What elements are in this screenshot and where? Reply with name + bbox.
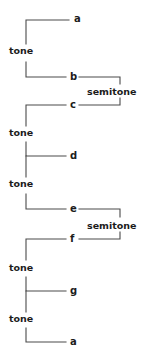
interval-semitone-b-c: semitone bbox=[87, 86, 137, 97]
bracket-tone-g-a-low bbox=[26, 328, 66, 342]
interval-tone-a-b: tone bbox=[9, 45, 33, 56]
note-g: g bbox=[70, 285, 77, 296]
interval-labels-group: tonesemitonetonetonesemitonetonetone bbox=[9, 45, 137, 324]
note-d: d bbox=[70, 150, 77, 161]
bracket-tone-f-g bbox=[26, 239, 66, 260]
bracket-semitone-e-f-low bbox=[79, 232, 120, 239]
scale-interval-diagram: abcdefga tonesemitonetonetonesemitoneton… bbox=[0, 0, 155, 358]
bracket-tone-a-b bbox=[26, 20, 69, 44]
bracket-semitone-e-f bbox=[79, 209, 120, 217]
interval-tone-g-a: tone bbox=[9, 313, 33, 324]
scale-diagram-canvas: abcdefga tonesemitonetonetonesemitoneton… bbox=[0, 0, 155, 358]
bracket-tone-a-b-low bbox=[26, 62, 66, 77]
interval-tone-d-e: tone bbox=[9, 178, 33, 189]
bracket-tone-f-g-low bbox=[26, 277, 66, 291]
note-a-top: a bbox=[74, 13, 81, 24]
bracket-tone-d-e-low bbox=[26, 194, 66, 209]
note-a-bottom: a bbox=[70, 336, 77, 347]
bracket-semitone-b-c bbox=[79, 77, 120, 84]
bracket-semitone-b-c-low bbox=[79, 98, 120, 105]
note-f: f bbox=[70, 233, 75, 244]
note-b: b bbox=[70, 71, 77, 82]
bracket-tone-c-d bbox=[26, 105, 66, 126]
note-labels-group: abcdefga bbox=[70, 13, 81, 347]
note-e: e bbox=[70, 203, 77, 214]
interval-tone-f-g: tone bbox=[9, 262, 33, 273]
note-c: c bbox=[70, 99, 76, 110]
interval-semitone-e-f: semitone bbox=[87, 220, 137, 231]
interval-tone-c-d: tone bbox=[9, 127, 33, 138]
bracket-tone-c-d-low bbox=[26, 142, 66, 156]
